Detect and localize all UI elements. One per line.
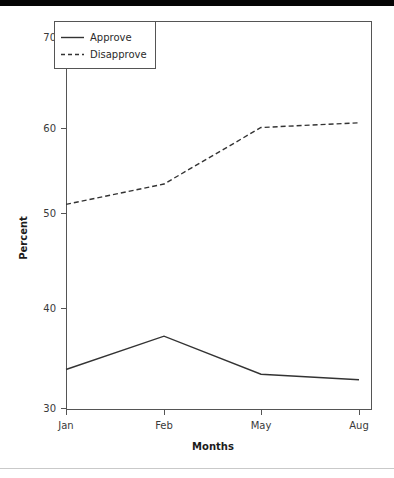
- x-axis-title: Months: [192, 441, 234, 452]
- line-chart: 70 60 50 40 30 Percent Jan Feb May Aug M…: [0, 6, 394, 468]
- y-tick-label-60: 60: [43, 123, 56, 134]
- y-tick-label-40: 40: [43, 303, 56, 314]
- x-tick-label-feb: Feb: [155, 420, 173, 431]
- bottom-divider: [0, 468, 394, 469]
- plot-frame: [67, 22, 372, 410]
- series-line-approve: [66, 336, 359, 380]
- chart-legend: Approve Disapprove: [55, 22, 156, 69]
- chart-figure: 70 60 50 40 30 Percent Jan Feb May Aug M…: [0, 6, 394, 468]
- legend-label-approve: Approve: [90, 32, 132, 43]
- legend-label-disapprove: Disapprove: [90, 49, 147, 60]
- y-tick-label-30: 30: [43, 403, 56, 414]
- screenshot-root: 70 60 50 40 30 Percent Jan Feb May Aug M…: [0, 0, 394, 478]
- y-axis-ticks: [61, 38, 66, 409]
- x-tick-label-may: May: [251, 420, 272, 431]
- x-tick-label-jan: Jan: [57, 420, 73, 431]
- x-tick-label-aug: Aug: [349, 420, 369, 431]
- series-line-disapprove: [66, 123, 359, 205]
- legend-box: [55, 22, 156, 69]
- x-axis-ticks: [67, 410, 360, 415]
- y-tick-label-50: 50: [43, 208, 56, 219]
- y-axis-title: Percent: [18, 216, 29, 260]
